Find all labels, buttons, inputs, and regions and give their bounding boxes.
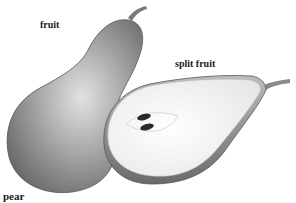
whole-pear-stem	[128, 6, 147, 21]
split-pear	[104, 75, 290, 184]
pear-illustration	[0, 0, 296, 203]
label-split-fruit: split fruit	[175, 58, 215, 69]
label-fruit: fruit	[40, 19, 59, 30]
label-pear: pear	[3, 190, 24, 202]
